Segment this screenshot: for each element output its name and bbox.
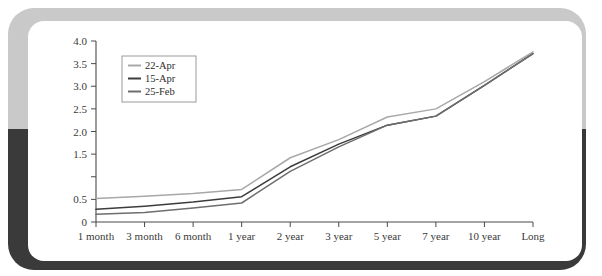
y-tick-label: 4.0 bbox=[73, 35, 87, 47]
y-tick-label: 0 bbox=[82, 216, 88, 228]
x-tick-label: 3 month bbox=[126, 230, 163, 242]
x-tick-label: 10 year bbox=[468, 230, 501, 242]
legend-label-22-apr: 22-Apr bbox=[145, 60, 176, 71]
chart-plot-host: 00.51.52.02.53.03.54.01 month3 month6 mo… bbox=[0, 0, 602, 276]
screenshot-root: 00.51.52.02.53.03.54.01 month3 month6 mo… bbox=[0, 0, 602, 276]
x-tick-label: 1 year bbox=[228, 230, 256, 242]
x-tick-label: 3 year bbox=[325, 230, 353, 242]
x-tick-label: 5 year bbox=[374, 230, 402, 242]
yield-curve-chart: 00.51.52.02.53.03.54.01 month3 month6 mo… bbox=[0, 0, 602, 276]
y-tick-label: 0.5 bbox=[73, 193, 87, 205]
x-tick-label: 7 year bbox=[422, 230, 450, 242]
x-tick-label: 2 year bbox=[277, 230, 305, 242]
legend-label-25-feb: 25-Feb bbox=[145, 86, 175, 97]
y-tick-label: 1.5 bbox=[73, 148, 87, 160]
y-tick-label: 3.0 bbox=[73, 80, 87, 92]
x-tick-label: 1 month bbox=[78, 230, 115, 242]
x-tick-label: 6 month bbox=[175, 230, 212, 242]
y-tick-label: 2.0 bbox=[73, 126, 87, 138]
x-tick-label: Long bbox=[521, 230, 545, 242]
y-tick-label: 2.5 bbox=[73, 103, 87, 115]
y-tick-label: 3.5 bbox=[73, 58, 87, 70]
legend-label-15-apr: 15-Apr bbox=[145, 73, 176, 84]
